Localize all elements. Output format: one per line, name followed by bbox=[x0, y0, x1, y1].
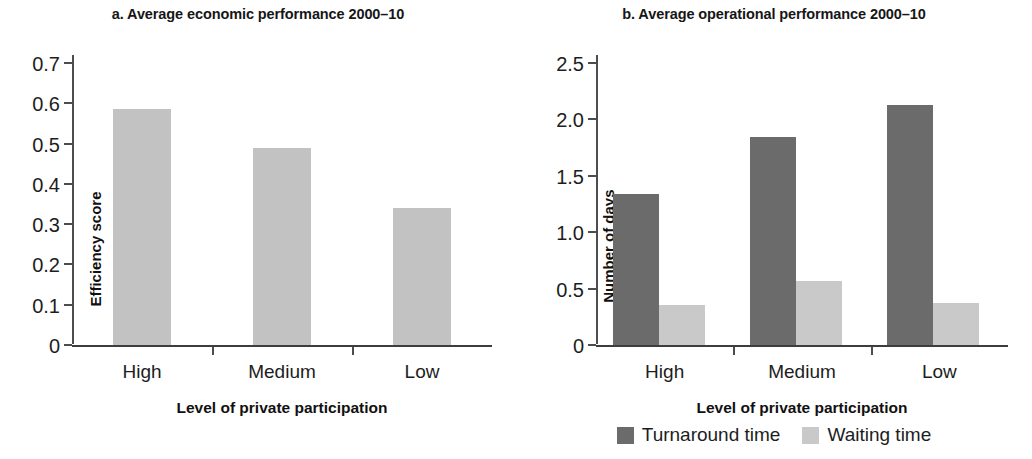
y-tick-label-a: 0.3 bbox=[32, 214, 60, 237]
legend-item[interactable]: Turnaround time bbox=[617, 424, 781, 446]
y-tick-a bbox=[64, 223, 72, 225]
y-tick-label-a: 0.1 bbox=[32, 294, 60, 317]
y-tick-b bbox=[588, 175, 596, 177]
x-axis-line-b bbox=[596, 345, 1008, 347]
y-tick-label-b: 2.5 bbox=[556, 53, 584, 76]
bar bbox=[796, 281, 842, 345]
y-tick-b bbox=[588, 62, 596, 64]
y-tick-a bbox=[64, 344, 72, 346]
y-tick-a bbox=[64, 304, 72, 306]
plot-area-a: Efficiency score Level of private partic… bbox=[72, 55, 492, 347]
y-tick-a bbox=[64, 183, 72, 185]
x-category-label: High bbox=[122, 361, 161, 383]
x-tick-a bbox=[212, 347, 214, 355]
x-category-label: Low bbox=[922, 361, 957, 383]
figure: a. Average economic performance 2000–10 … bbox=[0, 0, 1032, 459]
panel-b-title: b. Average operational performance 2000–… bbox=[516, 6, 1032, 22]
y-tick-label-a: 0.7 bbox=[32, 53, 60, 76]
y-axis-title-a: Efficiency score bbox=[87, 192, 104, 307]
y-tick-label-a: 0.2 bbox=[32, 254, 60, 277]
y-tick-a bbox=[64, 143, 72, 145]
chart-legend: Turnaround timeWaiting time bbox=[516, 424, 1032, 446]
x-category-label: Medium bbox=[768, 361, 836, 383]
y-tick-label-b: 1.0 bbox=[556, 222, 584, 245]
y-tick-label-b: 0.5 bbox=[556, 278, 584, 301]
legend-label: Turnaround time bbox=[642, 424, 781, 446]
x-tick-b bbox=[733, 347, 735, 355]
legend-swatch-icon bbox=[802, 427, 819, 444]
panel-a-title: a. Average economic performance 2000–10 bbox=[0, 6, 516, 22]
bar bbox=[393, 208, 451, 345]
y-tick-label-a: 0.6 bbox=[32, 93, 60, 116]
y-tick-label-a: 0.5 bbox=[32, 133, 60, 156]
bar bbox=[750, 137, 796, 345]
legend-swatch-icon bbox=[617, 427, 634, 444]
y-tick-label-a: 0.4 bbox=[32, 173, 60, 196]
y-tick-a bbox=[64, 102, 72, 104]
y-tick-b bbox=[588, 231, 596, 233]
y-axis-line-b bbox=[596, 55, 598, 344]
x-category-label: Low bbox=[405, 361, 440, 383]
x-category-label: Medium bbox=[248, 361, 316, 383]
y-tick-a bbox=[64, 263, 72, 265]
x-tick-a bbox=[352, 347, 354, 355]
chart-panel-b: b. Average operational performance 2000–… bbox=[516, 0, 1032, 459]
bar bbox=[659, 305, 705, 345]
y-tick-b bbox=[588, 118, 596, 120]
bar bbox=[887, 105, 933, 345]
y-tick-b bbox=[588, 288, 596, 290]
plot-area-b: Number of days Level of private particip… bbox=[596, 55, 1008, 347]
y-tick-label-b: 0 bbox=[573, 335, 584, 358]
x-tick-b bbox=[871, 347, 873, 355]
y-tick-a bbox=[64, 62, 72, 64]
x-axis-title-b: Level of private participation bbox=[596, 399, 1008, 417]
y-axis-line-a bbox=[72, 55, 74, 344]
y-tick-label-a: 0 bbox=[49, 335, 60, 358]
bar bbox=[113, 109, 171, 345]
chart-panel-a: a. Average economic performance 2000–10 … bbox=[0, 0, 516, 459]
x-axis-title-a: Level of private participation bbox=[72, 399, 492, 417]
bar bbox=[613, 194, 659, 345]
legend-label: Waiting time bbox=[827, 424, 931, 446]
y-tick-label-b: 1.5 bbox=[556, 165, 584, 188]
legend-item[interactable]: Waiting time bbox=[802, 424, 931, 446]
x-category-label: High bbox=[645, 361, 684, 383]
y-tick-label-b: 2.0 bbox=[556, 109, 584, 132]
y-tick-b bbox=[588, 344, 596, 346]
x-axis-line-a bbox=[72, 345, 492, 347]
bar bbox=[253, 148, 311, 345]
bar bbox=[933, 303, 979, 345]
